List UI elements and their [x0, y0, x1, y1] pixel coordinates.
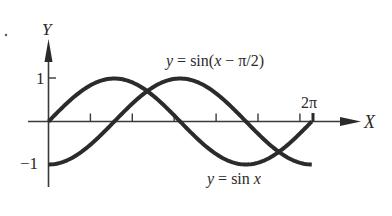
x-axis-label: X [363, 112, 376, 132]
x-tick-label-2pi: 2π [301, 94, 317, 111]
stray-mark [5, 34, 7, 36]
annotation-sin-curve: y = sin x [205, 170, 261, 188]
y-axis-arrow-icon [45, 39, 53, 62]
x-axis-arrow-icon [340, 117, 361, 126]
y-axis-label: Y [42, 20, 53, 39]
y-tick-label-1: 1 [36, 69, 45, 88]
annotation-shifted-curve: y = sin(x − π/2) [164, 52, 264, 70]
sine-chart: Y X 1 −1 2π y = sin(x − π/2) y = sin x [0, 0, 392, 216]
y-tick-label-minus-1: −1 [20, 154, 38, 173]
